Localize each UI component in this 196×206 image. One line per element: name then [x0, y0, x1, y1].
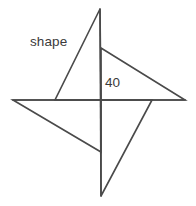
- shape-label: shape: [30, 34, 67, 49]
- lower-right-blade: [101, 100, 152, 196]
- upper-left-blade: [55, 9, 101, 100]
- pinwheel-diagram: [0, 0, 196, 206]
- lower-left-blade: [13, 100, 101, 152]
- angle-label: 40: [105, 75, 120, 90]
- pinwheel-figure: shape 40: [0, 0, 196, 206]
- upper-right-blade: [101, 48, 185, 100]
